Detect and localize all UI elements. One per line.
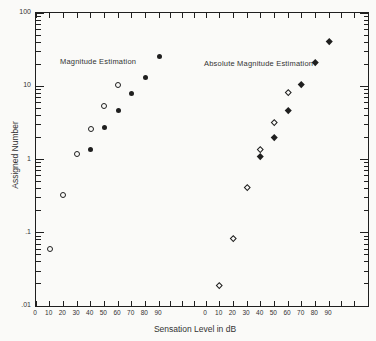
x-tick-mark xyxy=(170,301,171,306)
y-minor-tick-mark xyxy=(36,271,41,272)
y-tick-mark xyxy=(36,306,44,307)
magnitude-estimation-open-circles-point xyxy=(101,103,107,109)
y-minor-tick-mark xyxy=(36,162,41,163)
y-minor-tick-mark xyxy=(364,271,369,272)
y-minor-tick-mark xyxy=(36,254,41,255)
x-tick-mark xyxy=(145,13,146,18)
y-minor-tick-mark xyxy=(364,197,369,198)
x-tick-label: 80 xyxy=(311,309,318,316)
x-tick-label: 20 xyxy=(229,309,236,316)
x-tick-mark xyxy=(301,301,302,306)
x-tick-mark xyxy=(341,301,342,306)
x-tick-mark xyxy=(118,13,119,18)
x-tick-mark xyxy=(315,301,316,306)
y-minor-tick-mark xyxy=(36,175,41,176)
y-minor-tick-mark xyxy=(364,64,369,65)
y-minor-tick-mark xyxy=(36,124,41,125)
x-tick-mark xyxy=(118,301,119,306)
y-tick-mark xyxy=(36,159,44,160)
x-tick-label: 90 xyxy=(324,309,331,316)
x-tick-mark xyxy=(219,301,220,306)
y-minor-tick-mark xyxy=(364,162,369,163)
x-tick-label: 0 xyxy=(203,309,207,316)
y-tick-mark xyxy=(360,86,368,87)
absolute-magnitude-estimation-filled-diamonds-point xyxy=(326,38,332,44)
x-tick-mark xyxy=(206,301,207,306)
y-minor-tick-mark xyxy=(364,166,369,167)
magnitude-estimation-open-circles-point xyxy=(88,126,94,132)
y-minor-tick-mark xyxy=(364,97,369,98)
x-tick-label: 30 xyxy=(72,309,79,316)
absolute-magnitude-estimation-filled-diamonds-point xyxy=(285,107,291,113)
magnitude-estimation-open-circles-point xyxy=(47,246,53,252)
magnitude-estimation-filled-circles-point xyxy=(102,125,107,130)
x-tick-label: 20 xyxy=(59,309,66,316)
magnitude-estimation-filled-circles-point xyxy=(129,91,134,96)
x-tick-label: 50 xyxy=(270,309,277,316)
x-tick-mark xyxy=(49,13,50,18)
x-tick-mark xyxy=(63,13,64,18)
y-minor-tick-mark xyxy=(364,102,369,103)
magnitude-estimation-filled-circles-point xyxy=(88,147,93,152)
y-minor-tick-mark xyxy=(364,51,369,52)
x-tick-mark xyxy=(247,13,248,18)
x-tick-mark xyxy=(260,301,261,306)
y-minor-tick-mark xyxy=(36,51,41,52)
x-tick-mark xyxy=(159,13,160,18)
x-tick-mark xyxy=(233,301,234,306)
x-tick-mark xyxy=(219,13,220,18)
x-tick-mark xyxy=(131,301,132,306)
x-tick-mark xyxy=(77,13,78,18)
x-tick-label: 80 xyxy=(141,309,148,316)
y-minor-tick-mark xyxy=(364,170,369,171)
annotation-magnitude-estimation: Magnitude Estimation xyxy=(60,57,136,66)
x-tick-mark xyxy=(301,13,302,18)
absolute-magnitude-estimation-open-diamonds-point xyxy=(216,282,222,288)
x-tick-mark xyxy=(329,13,330,18)
y-minor-tick-mark xyxy=(364,137,369,138)
x-tick-label: 30 xyxy=(242,309,249,316)
x-tick-mark xyxy=(288,301,289,306)
y-minor-tick-mark xyxy=(364,124,369,125)
x-tick-mark xyxy=(104,13,105,18)
x-tick-mark xyxy=(104,301,105,306)
y-minor-tick-mark xyxy=(36,181,41,182)
magnitude-estimation-filled-circles-point xyxy=(116,108,121,113)
x-tick-mark xyxy=(90,13,91,18)
y-minor-tick-mark xyxy=(36,170,41,171)
magnitude-estimation-open-circles-point xyxy=(60,192,66,198)
y-minor-tick-mark xyxy=(36,239,41,240)
y-tick-label: .1 xyxy=(0,228,31,236)
annotation-absolute-magnitude-estimation: Absolute Magnitude Estimation xyxy=(204,59,313,68)
x-tick-mark xyxy=(274,13,275,18)
absolute-magnitude-estimation-open-diamonds-point xyxy=(244,184,250,190)
x-tick-mark xyxy=(274,301,275,306)
y-tick-label: 10 xyxy=(0,81,31,89)
x-tick-label: 50 xyxy=(100,309,107,316)
y-minor-tick-mark xyxy=(36,210,41,211)
x-tick-label: 40 xyxy=(256,309,263,316)
y-minor-tick-mark xyxy=(364,89,369,90)
y-minor-tick-mark xyxy=(36,236,41,237)
x-tick-mark xyxy=(233,13,234,18)
x-tick-label: 60 xyxy=(113,309,120,316)
x-tick-mark xyxy=(329,301,330,306)
y-minor-tick-mark xyxy=(364,254,369,255)
x-tick-mark xyxy=(341,13,342,18)
x-tick-mark xyxy=(77,301,78,306)
y-minor-tick-mark xyxy=(364,188,369,189)
x-tick-label: 0 xyxy=(33,309,37,316)
y-minor-tick-mark xyxy=(36,42,41,43)
x-tick-mark xyxy=(247,301,248,306)
y-minor-tick-mark xyxy=(364,29,369,30)
y-minor-tick-mark xyxy=(364,236,369,237)
x-tick-mark xyxy=(354,301,355,306)
y-minor-tick-mark xyxy=(36,29,41,30)
y-minor-tick-mark xyxy=(364,35,369,36)
y-minor-tick-mark xyxy=(36,24,41,25)
x-tick-label: 70 xyxy=(297,309,304,316)
y-minor-tick-mark xyxy=(364,93,369,94)
y-minor-tick-mark xyxy=(36,97,41,98)
y-minor-tick-mark xyxy=(364,181,369,182)
magnitude-estimation-filled-circles-point xyxy=(157,54,162,59)
